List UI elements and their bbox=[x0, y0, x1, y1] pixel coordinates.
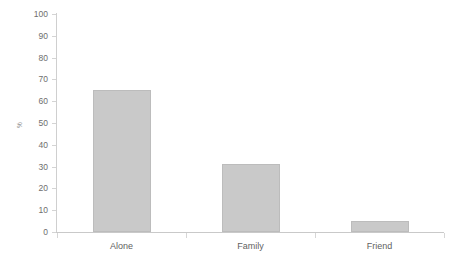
bar bbox=[351, 221, 409, 232]
x-axis-tick-mark bbox=[444, 233, 445, 238]
y-axis-tick-label: 70 bbox=[24, 75, 48, 84]
bar bbox=[222, 164, 280, 232]
plot-area bbox=[57, 14, 444, 232]
x-axis-category-label: Friend bbox=[315, 240, 444, 252]
y-axis-tick-label: 10 bbox=[24, 206, 48, 215]
y-axis-tick-label: 80 bbox=[24, 53, 48, 62]
x-axis-tick-mark bbox=[186, 233, 187, 238]
y-axis-tick-label: 40 bbox=[24, 140, 48, 149]
y-axis-tick-label: 30 bbox=[24, 162, 48, 171]
y-axis-tick-label: 0 bbox=[24, 228, 48, 237]
y-axis-tick-label: 100 bbox=[24, 10, 48, 19]
y-axis-tick-labels: 0102030405060708090100 bbox=[24, 8, 48, 234]
x-axis-category-labels: AloneFamilyFriend bbox=[57, 240, 444, 254]
y-axis-tick-label: 60 bbox=[24, 97, 48, 106]
bar-chart: % 0102030405060708090100 AloneFamilyFrie… bbox=[0, 0, 450, 261]
x-axis-tick-mark bbox=[315, 233, 316, 238]
y-axis-tick-label: 20 bbox=[24, 184, 48, 193]
x-axis-category-label: Alone bbox=[57, 240, 186, 252]
y-axis-tick-label: 90 bbox=[24, 31, 48, 40]
x-axis-tick-mark bbox=[57, 233, 58, 238]
x-axis-tick-marks bbox=[57, 233, 444, 238]
x-axis-category-label: Family bbox=[186, 240, 315, 252]
bar bbox=[93, 90, 151, 232]
y-axis-tick-label: 50 bbox=[24, 119, 48, 128]
